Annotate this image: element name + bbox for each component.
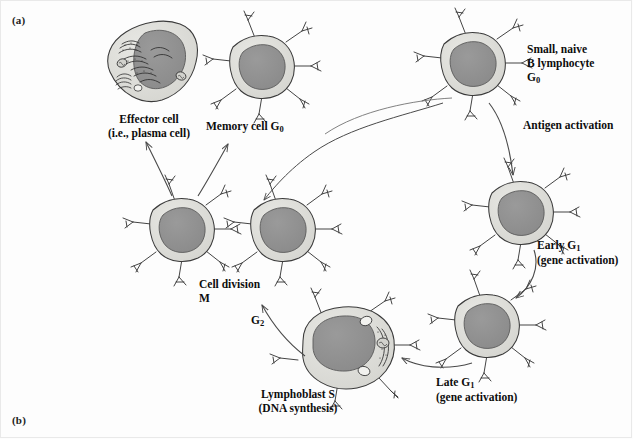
- arrow-memory-arc: [325, 98, 452, 134]
- late-g1-label: Late G: [436, 376, 470, 388]
- late-g1-cell: [428, 270, 546, 382]
- naive-b-label-line1: Small, naive: [527, 42, 594, 56]
- late-g1-subscript: 1: [470, 380, 474, 390]
- effector-cell-label-line1: Effector cell: [85, 112, 213, 126]
- naive-b-label-line2: B lymphocyte: [527, 56, 594, 70]
- cell-division-label-line1: Cell division: [199, 277, 260, 291]
- daughter-cell-left: [123, 175, 241, 286]
- memory-cell: [203, 11, 321, 123]
- daughter-cell-right: [224, 175, 342, 286]
- effector-cell: [108, 21, 198, 101]
- arrow-g2-to-cell-division: [262, 305, 305, 356]
- memory-cell-subscript: 0: [279, 124, 283, 134]
- panel-b-label: (b): [12, 414, 26, 426]
- early-g1-sublabel: (gene activation): [537, 253, 618, 267]
- panel-a-label: (a): [12, 14, 25, 26]
- arrow-recirculation-arc: [264, 103, 443, 200]
- antigen-activation-label: Antigen activation: [523, 118, 613, 132]
- naive-b-subscript: 0: [536, 75, 540, 85]
- early-g1-label: Early G: [537, 239, 576, 251]
- lymphoblast-label-line1: Lymphoblast S: [228, 387, 368, 401]
- naive-b-label-line3: G: [527, 71, 536, 83]
- early-g1-subscript: 1: [576, 243, 580, 253]
- naive-b-cell: [414, 8, 532, 120]
- memory-cell-label: Memory cell G: [206, 120, 279, 132]
- lymphoblast-label-line2: (DNA synthesis): [228, 401, 368, 415]
- g2-phase-label: G: [251, 314, 260, 326]
- g2-phase-subscript: 2: [260, 318, 264, 328]
- late-g1-sublabel: (gene activation): [436, 390, 517, 404]
- arrow-antigen-activation: [489, 103, 513, 175]
- figure-container: (a) (b) Effector cell (i.e., plasma cell…: [0, 0, 633, 439]
- arrow-to-effector-cell: [146, 142, 172, 196]
- effector-cell-label-line2: (i.e., plasma cell): [85, 126, 213, 140]
- cell-division-label-line2: M: [199, 291, 260, 305]
